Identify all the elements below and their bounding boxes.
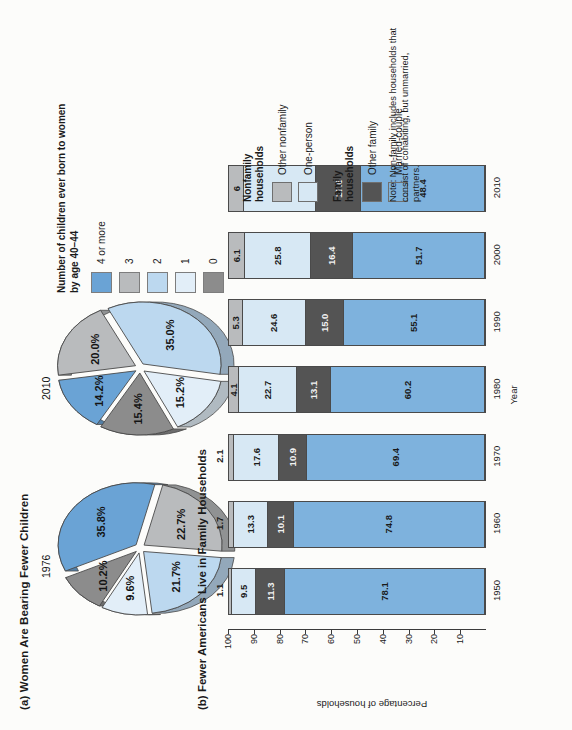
pie-slice-label: 21.7% xyxy=(170,561,182,592)
legend-swatch-icon xyxy=(91,272,112,293)
bar-segment[interactable]: 9.5 xyxy=(232,569,256,614)
bar-segment-value: 69.4 xyxy=(390,448,401,467)
bar-segment[interactable]: 11.3 xyxy=(256,569,285,614)
legend-b-item[interactable]: Other family xyxy=(362,2,382,202)
bar-segment[interactable]: 5.3 xyxy=(229,300,243,345)
y-axis-tick-mark xyxy=(331,629,332,634)
pie-slice-label: 14.2% xyxy=(93,375,105,406)
legend-a-item[interactable]: 4 or more xyxy=(91,103,112,293)
y-axis-tick-label: 60 xyxy=(326,634,336,644)
bar-column[interactable]: 51.716.425.86.12000 xyxy=(228,232,486,279)
legend-swatch-icon xyxy=(298,182,318,202)
legend-b-item-label: Other family xyxy=(367,121,378,175)
y-axis-label: Percentage of households xyxy=(317,699,427,710)
legend-a-item-label: 0 xyxy=(208,258,219,264)
legend-a-item[interactable]: 3 xyxy=(119,103,140,293)
y-axis-tick-label: 50 xyxy=(352,634,362,644)
bar-segment-value: 16.4 xyxy=(326,246,337,265)
y-axis-tick-mark xyxy=(254,629,255,634)
bar-segment[interactable]: 10.1 xyxy=(268,502,294,547)
pie-slice-label: 22.7% xyxy=(175,509,187,540)
bar-segment[interactable]: 13.1 xyxy=(297,368,331,413)
bar-segment[interactable]: 25.8 xyxy=(245,233,311,278)
x-axis-tick-label: 2010 xyxy=(491,164,502,211)
y-axis-tick-label: 80 xyxy=(275,634,285,644)
bar-segment-value-outside: 1.1 xyxy=(214,567,225,614)
bar-column[interactable]: 60.213.122.74.11980 xyxy=(228,367,486,414)
legend-a-item[interactable]: 1 xyxy=(175,103,196,293)
bar-segment[interactable]: 55.1 xyxy=(344,300,485,345)
bar-column[interactable]: 55.115.024.65.31990 xyxy=(228,299,486,346)
y-axis-tick-label: 10 xyxy=(455,634,465,644)
legend-b-group-title: Family households xyxy=(332,2,356,202)
legend-a-item[interactable]: 0 xyxy=(203,103,224,293)
bar-segment-value: 51.7 xyxy=(413,246,424,265)
bar-segment-value-outside: 2.1 xyxy=(214,433,225,480)
x-axis-label: Year xyxy=(508,160,519,630)
y-axis-tick-mark xyxy=(409,629,410,634)
y-axis-tick-label: 100 xyxy=(223,634,233,649)
bar-segment[interactable]: 51.7 xyxy=(353,233,485,278)
pie-year-label-2010: 2010 xyxy=(40,377,52,400)
pie-slice-label: 20.0% xyxy=(89,333,101,364)
bar-column[interactable]: 78.111.39.51.11950 xyxy=(228,568,486,615)
bar-column[interactable]: 69.410.917.62.11970 xyxy=(228,434,486,481)
bar-segment-value: 17.6 xyxy=(251,448,262,467)
bar-segment-value: 25.8 xyxy=(272,246,283,265)
bar-segment[interactable]: 78.1 xyxy=(285,569,485,614)
x-axis-tick-label: 1950 xyxy=(491,567,502,614)
legend-a-item[interactable]: 2 xyxy=(147,103,168,293)
bar-segment-value: 6 xyxy=(231,186,242,191)
legend-b-item[interactable]: Other nonfamily xyxy=(272,2,292,202)
legend-swatch-icon xyxy=(175,272,196,293)
bar-segment[interactable]: 22.7 xyxy=(239,368,297,413)
bar-segment[interactable]: 10.9 xyxy=(279,435,307,480)
bar-segment[interactable]: 6.1 xyxy=(229,233,245,278)
legend-b-group-title: Nonfamily households xyxy=(242,2,266,202)
bar-segment[interactable]: 15.0 xyxy=(306,300,344,345)
bar-segment[interactable]: 60.2 xyxy=(331,368,485,413)
x-axis-tick-label: 1980 xyxy=(491,366,502,413)
y-axis-tick-mark xyxy=(460,629,461,634)
pie-chart-2010: 14.2%20.0%35.0%15.2%15.4% xyxy=(56,278,236,458)
legend-panel-a: Number of children ever born to women by… xyxy=(56,103,231,293)
pie-slice-label: 35.0% xyxy=(164,319,176,350)
bar-segment-value: 10.9 xyxy=(287,448,298,467)
y-axis-tick-label: 30 xyxy=(404,634,414,644)
legend-swatch-icon xyxy=(203,272,224,293)
bar-segment[interactable]: 4.1 xyxy=(229,368,239,413)
bar-segment[interactable] xyxy=(229,435,234,480)
x-axis-tick-label: 1990 xyxy=(491,298,502,345)
rotated-figure-canvas: (a) Women Are Bearing Fewer Children 197… xyxy=(0,0,572,730)
x-axis-tick-label: 2000 xyxy=(491,231,502,278)
bar-segment[interactable]: 16.4 xyxy=(311,233,353,278)
pie-svg: 14.2%20.0%35.0%15.2%15.4% xyxy=(56,278,236,458)
bar-segment-value: 60.2 xyxy=(402,381,413,400)
bar-column[interactable]: 74.810.113.31.71960 xyxy=(228,501,486,548)
pie-svg: 35.8%22.7%21.7%9.6%10.2% xyxy=(56,458,236,638)
bar-segment[interactable] xyxy=(229,569,232,614)
bar-segment-value: 10.1 xyxy=(275,515,286,534)
legend-b-item[interactable]: One-person xyxy=(298,2,318,202)
bar-segment-value: 24.6 xyxy=(268,314,279,333)
legend-a-item-label: 4 or more xyxy=(96,221,107,264)
y-axis-tick-mark xyxy=(357,629,358,634)
pie-slice-label: 15.2% xyxy=(174,377,186,408)
bar-segment[interactable] xyxy=(229,502,233,547)
pie-slice-label: 9.6% xyxy=(124,575,136,600)
bar-segment-value: 78.1 xyxy=(379,582,390,601)
pie-slice[interactable] xyxy=(144,552,222,614)
bar-segment-value: 9.5 xyxy=(238,585,249,598)
legend-b-item-label: Other nonfamily xyxy=(277,104,288,175)
figure-page: (a) Women Are Bearing Fewer Children 197… xyxy=(0,0,572,730)
bar-segment[interactable]: 13.3 xyxy=(234,502,268,547)
bar-segment-value: 22.7 xyxy=(262,381,273,400)
bar-segment[interactable]: 24.6 xyxy=(243,300,306,345)
bar-segment[interactable]: 69.4 xyxy=(307,435,485,480)
bar-segment[interactable]: 74.8 xyxy=(294,502,485,547)
legend-swatch-icon xyxy=(147,272,168,293)
bar-segment[interactable]: 17.6 xyxy=(234,435,279,480)
y-axis-tick-mark xyxy=(305,629,306,634)
pie-year-label-1976: 1976 xyxy=(40,555,52,578)
legend-a-items: 4 or more3210 xyxy=(91,103,224,293)
